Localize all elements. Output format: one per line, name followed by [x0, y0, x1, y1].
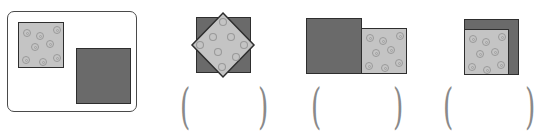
swirl-pattern-icon [372, 49, 380, 57]
option-3-light-square [464, 29, 509, 75]
swirl-pattern-icon [396, 32, 404, 40]
swirl-pattern-icon [476, 50, 484, 58]
option-2-close-paren: ) [393, 82, 403, 130]
option-2-light-square [361, 28, 407, 74]
swirl-pattern-icon [491, 48, 499, 56]
swirl-pattern-icon [482, 38, 490, 46]
option-3-close-paren: ) [525, 82, 535, 130]
option-1-close-paren: ) [258, 82, 268, 130]
swirl-pattern-icon [469, 35, 477, 43]
option-3-open-paren: ( [443, 82, 453, 130]
swirl-pattern-icon [483, 66, 491, 74]
swirl-pattern-icon [366, 34, 374, 42]
option-2-open-paren: ( [311, 82, 321, 130]
swirl-pattern-icon [395, 59, 403, 67]
swirl-pattern-icon [379, 37, 387, 45]
option-1-open-paren: ( [180, 82, 190, 130]
swirl-pattern-icon [497, 61, 505, 69]
swirl-pattern-icon [365, 62, 373, 70]
swirl-pattern-icon [468, 63, 476, 71]
swirl-pattern-icon [387, 46, 395, 54]
option-2-dark-square [306, 18, 362, 74]
swirl-pattern-icon [381, 64, 389, 72]
swirl-pattern-icon [498, 33, 506, 41]
